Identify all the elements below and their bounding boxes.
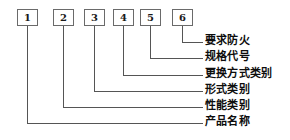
code-box-4-label: 4	[120, 12, 127, 23]
code-box-5-label: 5	[147, 12, 154, 23]
code-box-1: 1	[17, 9, 38, 26]
callout-2-label: 性能类别	[205, 100, 250, 112]
callout-6-label: 要求防火	[205, 35, 250, 47]
callout-3-leader	[94, 91, 203, 92]
callout-1-stem	[27, 26, 28, 124]
code-box-5: 5	[140, 9, 161, 26]
callout-5-leader	[150, 58, 203, 59]
code-box-6: 6	[172, 9, 193, 26]
code-box-1-label: 1	[24, 12, 31, 23]
callout-4-leader	[123, 75, 203, 76]
code-box-2-label: 2	[60, 12, 67, 23]
callout-2-stem	[63, 26, 64, 108]
callout-5-stem	[150, 26, 151, 59]
code-box-6-label: 6	[179, 12, 186, 23]
callout-4-label: 更换方式类别	[205, 68, 272, 80]
callout-1-label: 产品名称	[205, 116, 250, 128]
callout-3-label: 形式类别	[205, 84, 250, 96]
callout-6-leader	[182, 42, 203, 43]
callout-4-stem	[123, 26, 124, 76]
code-box-4: 4	[113, 9, 134, 26]
model-designation-diagram: 1 2 3 4 5 6 要求防火 规格代号 更换方式类别 形式类别 性能类别 产…	[0, 0, 290, 140]
code-box-3-label: 3	[91, 12, 98, 23]
callout-3-stem	[94, 26, 95, 92]
callout-2-leader	[63, 107, 203, 108]
callout-5-label: 规格代号	[205, 51, 250, 63]
callout-6-stem	[182, 26, 183, 43]
code-box-2: 2	[53, 9, 74, 26]
callout-1-leader	[27, 123, 203, 124]
code-box-3: 3	[84, 9, 105, 26]
